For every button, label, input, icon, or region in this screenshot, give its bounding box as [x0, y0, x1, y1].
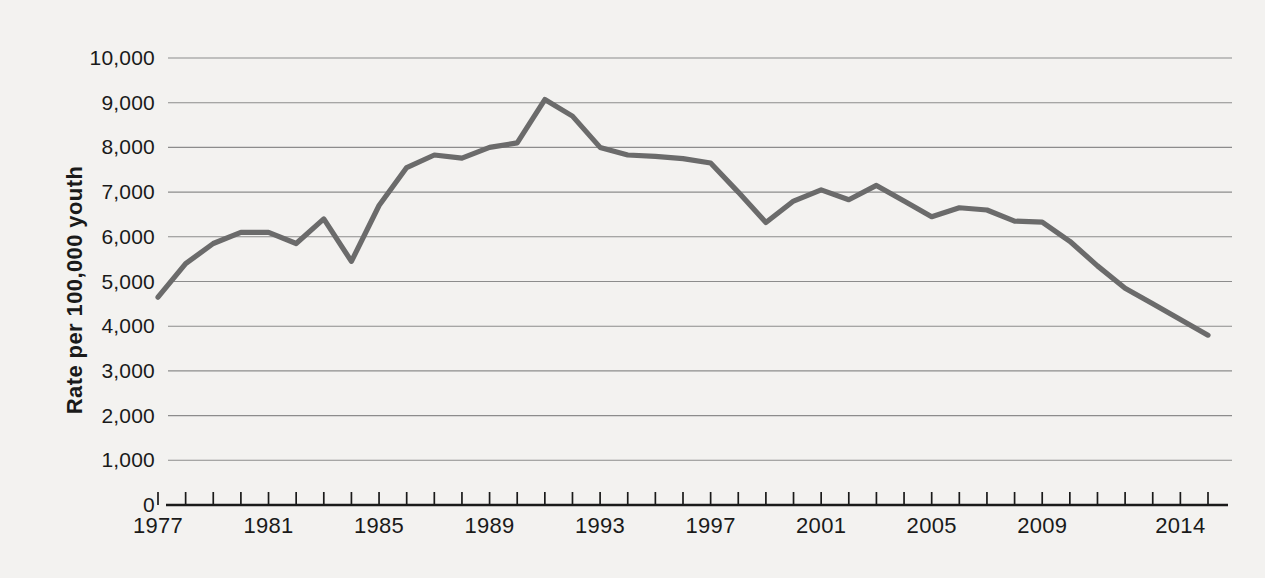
line-chart: 01,0002,0003,0004,0005,0006,0007,0008,00… [0, 0, 1265, 578]
x-axis-tick-label: 2014 [1155, 513, 1205, 538]
y-axis-title: Rate per 100,000 youth [62, 166, 87, 414]
x-axis-tick-label: 1993 [575, 513, 625, 538]
gridlines [168, 58, 1232, 460]
y-axis-tick-label: 8,000 [101, 135, 155, 158]
x-axis-tick-labels: 1977198119851989199319972001200520092014 [133, 513, 1206, 538]
x-axis-tick-label: 2005 [907, 513, 957, 538]
x-axis-tick-label: 1997 [686, 513, 736, 538]
chart-container: 01,0002,0003,0004,0005,0006,0007,0008,00… [0, 0, 1265, 578]
data-series-line [158, 100, 1208, 336]
x-axis-tick-label: 1989 [465, 513, 515, 538]
x-axis-tick-label: 2009 [1017, 513, 1067, 538]
y-axis-tick-labels: 01,0002,0003,0004,0005,0006,0007,0008,00… [90, 46, 155, 516]
x-axis-tick-label: 2001 [796, 513, 846, 538]
y-axis-tick-label: 6,000 [101, 225, 155, 248]
x-axis-tick-label: 1981 [243, 513, 293, 538]
y-axis-title-text: Rate per 100,000 youth [62, 166, 87, 414]
y-axis-tick-label: 9,000 [101, 91, 155, 114]
x-axis-tick-marks [158, 492, 1208, 505]
y-axis-tick-label: 7,000 [101, 180, 155, 203]
y-axis-tick-label: 2,000 [101, 404, 155, 427]
data-line-path [158, 100, 1208, 336]
y-axis-tick-label: 5,000 [101, 270, 155, 293]
y-axis-tick-label: 3,000 [101, 359, 155, 382]
y-axis-tick-label: 1,000 [101, 448, 155, 471]
y-axis-tick-label: 4,000 [101, 314, 155, 337]
y-axis-tick-label: 10,000 [90, 46, 155, 69]
x-axis-tick-label: 1985 [354, 513, 404, 538]
x-axis-tick-label: 1977 [133, 513, 183, 538]
